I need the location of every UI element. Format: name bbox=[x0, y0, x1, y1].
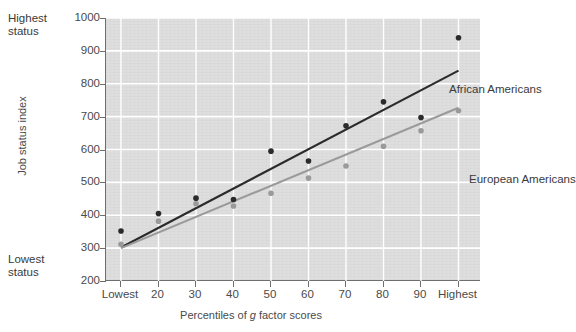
y-tick: 600 bbox=[60, 144, 100, 155]
data-point bbox=[156, 218, 162, 224]
x-tick-mark bbox=[195, 281, 196, 287]
y-tick-label: 1000 bbox=[64, 12, 100, 23]
x-tick-mark bbox=[158, 281, 159, 287]
data-point bbox=[156, 211, 162, 217]
trendline-european-americans bbox=[121, 108, 459, 248]
y-axis-title: Job status index bbox=[16, 76, 28, 196]
y-tick: 800 bbox=[60, 78, 100, 89]
data-point bbox=[118, 228, 124, 234]
annotation-lowest-status: Lowest status bbox=[8, 253, 44, 278]
data-point bbox=[268, 148, 274, 154]
x-tick-mark bbox=[383, 281, 384, 287]
plot-area: African Americans European Americans bbox=[105, 18, 480, 281]
x-tick-mark bbox=[270, 281, 271, 287]
data-point bbox=[381, 143, 387, 149]
x-tick-mark bbox=[308, 281, 309, 287]
x-tick-mark bbox=[233, 281, 234, 287]
series-label-african-americans: African Americans bbox=[449, 83, 542, 95]
y-tick: 500 bbox=[60, 176, 100, 187]
data-point bbox=[343, 163, 349, 169]
x-tick-mark bbox=[458, 281, 459, 287]
data-point bbox=[456, 35, 462, 41]
y-tick-label: 200 bbox=[64, 275, 100, 286]
y-tick-label: 700 bbox=[64, 111, 100, 122]
data-point bbox=[193, 195, 199, 201]
gridlines bbox=[106, 18, 481, 281]
x-axis-title: Percentiles of g factor scores bbox=[0, 309, 502, 321]
x-axis-title-prefix: Percentiles of bbox=[180, 309, 250, 321]
y-tick-label: 500 bbox=[64, 176, 100, 187]
series-label-european-americans: European Americans bbox=[469, 173, 576, 185]
data-point bbox=[418, 115, 424, 121]
x-tick-mark bbox=[420, 281, 421, 287]
y-tick-label: 400 bbox=[64, 209, 100, 220]
x-tick-label: Highest bbox=[428, 288, 488, 300]
y-tick: 400 bbox=[60, 209, 100, 220]
y-tick-mark bbox=[100, 281, 106, 282]
y-tick-label: 300 bbox=[64, 242, 100, 253]
data-point bbox=[268, 190, 274, 196]
data-point bbox=[418, 128, 424, 134]
x-axis-title-suffix: factor scores bbox=[256, 309, 322, 321]
y-tick: 900 bbox=[60, 45, 100, 56]
y-tick: 200 bbox=[60, 275, 100, 286]
data-point bbox=[381, 99, 387, 105]
data-point bbox=[231, 203, 237, 209]
plot-svg bbox=[106, 18, 481, 281]
trendlines bbox=[121, 71, 459, 249]
x-tick-mark bbox=[345, 281, 346, 287]
annotation-highest-status: Highest status bbox=[8, 12, 47, 37]
data-point bbox=[306, 175, 312, 181]
data-point bbox=[343, 123, 349, 129]
y-tick-label: 800 bbox=[64, 78, 100, 89]
y-tick: 300 bbox=[60, 242, 100, 253]
y-tick: 700 bbox=[60, 111, 100, 122]
data-point bbox=[306, 158, 312, 164]
y-tick-label: 900 bbox=[64, 45, 100, 56]
y-tick: 1000 bbox=[60, 12, 100, 23]
data-point bbox=[193, 201, 199, 207]
data-point bbox=[456, 108, 462, 114]
trendline-african-americans bbox=[121, 71, 459, 248]
x-tick-mark bbox=[120, 281, 121, 287]
y-tick-label: 600 bbox=[64, 144, 100, 155]
data-point bbox=[118, 241, 124, 247]
data-point bbox=[231, 197, 237, 203]
